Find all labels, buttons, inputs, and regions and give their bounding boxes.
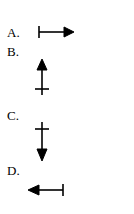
option-label-a: A. <box>7 26 20 39</box>
arrow-down-with-tail-crossbar-icon <box>31 119 53 161</box>
arrow-left-with-tail-tick-icon <box>28 182 72 198</box>
arrow-right-with-tail-tick-icon <box>30 24 74 40</box>
multiple-choice-vector-figure: A. B. C. D. <box>0 0 134 214</box>
option-label-d: D. <box>7 164 20 177</box>
option-label-c: C. <box>7 109 19 122</box>
option-label-b: B. <box>7 45 19 58</box>
arrow-up-with-tail-crossbar-icon <box>31 59 53 99</box>
